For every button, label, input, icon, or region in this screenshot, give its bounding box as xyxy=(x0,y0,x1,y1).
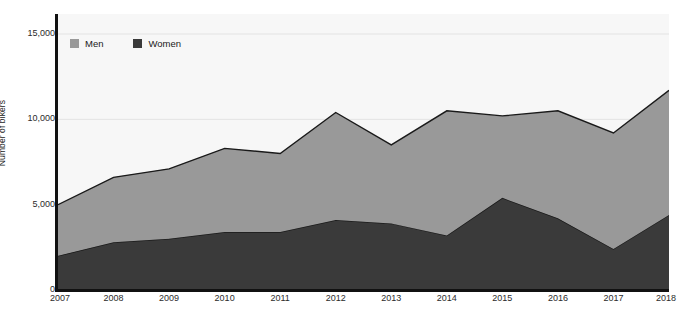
x-tick-label: 2017 xyxy=(593,294,633,303)
legend-swatch-icon xyxy=(133,39,142,48)
chart-legend: MenWomen xyxy=(70,39,181,49)
y-axis-line xyxy=(55,14,58,291)
y-tick-label: 5,000 xyxy=(11,200,55,209)
x-tick-label: 2008 xyxy=(94,294,134,303)
x-axis-tick-labels: 2007200820092010201120122013201420152016… xyxy=(0,294,669,310)
legend-entry-men[interactable]: Men xyxy=(70,39,103,49)
x-tick-label: 2009 xyxy=(149,294,189,303)
y-tick-label: 0 xyxy=(11,285,55,294)
legend-label: Men xyxy=(85,39,103,49)
x-tick-label: 2011 xyxy=(260,294,300,303)
x-tick-label: 2016 xyxy=(538,294,578,303)
y-tick-label: 15,000 xyxy=(11,29,55,38)
legend-entry-women[interactable]: Women xyxy=(133,39,181,49)
plot-area xyxy=(58,14,669,290)
legend-swatch-icon xyxy=(70,39,79,48)
y-axis-tick-labels: 05,00010,00015,000 xyxy=(0,0,55,310)
x-tick-label: 2007 xyxy=(40,294,80,303)
x-tick-label: 2010 xyxy=(205,294,245,303)
plot-svg xyxy=(58,14,669,290)
x-tick-label: 2015 xyxy=(482,294,522,303)
x-tick-label: 2012 xyxy=(316,294,356,303)
y-tick-label: 10,000 xyxy=(11,114,55,123)
x-tick-label: 2018 xyxy=(646,294,681,303)
x-tick-label: 2014 xyxy=(427,294,467,303)
x-tick-label: 2013 xyxy=(371,294,411,303)
legend-label: Women xyxy=(148,39,181,49)
x-axis-line xyxy=(55,289,669,292)
